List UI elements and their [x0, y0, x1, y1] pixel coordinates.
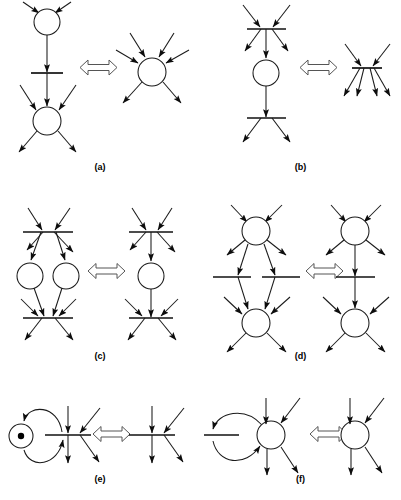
arc-out [326, 333, 345, 352]
place-node [34, 9, 60, 35]
arc-in [161, 299, 178, 316]
arc-in [21, 299, 38, 316]
place-node [138, 58, 166, 86]
panel-f-left-graph [204, 398, 300, 475]
arc-in [323, 297, 341, 314]
arc-in [158, 208, 172, 230]
arc-out [19, 131, 37, 152]
arc-in [365, 398, 384, 423]
arc-in [55, 2, 71, 13]
arc-out [326, 240, 344, 255]
arc-in [281, 398, 300, 423]
arc-out [267, 333, 286, 352]
arc-in [28, 208, 42, 230]
arc-out [164, 435, 183, 462]
panel-a-left-graph [19, 2, 76, 152]
token-dot [18, 433, 24, 439]
arc-in [23, 2, 39, 13]
arc-out [366, 333, 385, 352]
panel-b [243, 5, 390, 142]
panel-a [19, 2, 189, 152]
arc-out [245, 29, 261, 51]
arc-out [365, 447, 382, 473]
arc-out [25, 318, 42, 340]
panel-c-equiv-arrow [88, 264, 125, 279]
place-node [341, 217, 369, 245]
panel-f [204, 398, 384, 475]
panel-caption-a: (a) [0, 162, 200, 172]
panel-b-right-graph [344, 44, 390, 96]
panel-d-right-graph [323, 205, 389, 352]
arc-in [130, 33, 145, 57]
panel-caption-f: (f) [200, 474, 401, 484]
arc-out [267, 240, 286, 255]
panel-d [213, 205, 389, 352]
arc-in [364, 205, 381, 222]
panel-e-right-graph [129, 406, 184, 463]
double-headed-arrow-icon [300, 60, 337, 75]
panel-c [17, 208, 178, 340]
place-node [33, 107, 61, 135]
arc-in [231, 205, 247, 222]
arc-in [80, 408, 100, 433]
arc-out [272, 29, 288, 51]
arc-in [164, 408, 184, 433]
panel-e-left-graph [9, 406, 100, 463]
arc-out [281, 447, 298, 473]
double-headed-arrow-icon [88, 264, 125, 279]
panel-e [9, 406, 184, 463]
loop-arc-to-transition [213, 413, 262, 429]
arc-internal [53, 288, 62, 316]
arc-in [370, 297, 389, 314]
arc-internal [31, 232, 41, 260]
petri-net-equivalence-figure [0, 0, 401, 500]
panel-c-left-graph [17, 208, 79, 340]
place-node [138, 263, 164, 289]
arc-internal [238, 277, 248, 309]
arc-out [123, 82, 142, 103]
arc-out [243, 118, 261, 142]
place-node [242, 309, 270, 337]
arc-out [55, 318, 73, 340]
place-node [53, 263, 79, 289]
arc-in [271, 297, 290, 314]
arc-out [227, 333, 246, 352]
place-node [242, 217, 270, 245]
panel-b-equiv-arrow [300, 60, 337, 75]
arc-internal [264, 244, 275, 275]
arc-out [366, 240, 385, 255]
panel-caption-c: (c) [0, 351, 200, 361]
panel-e-equiv-arrow [93, 427, 130, 442]
arc-in [159, 33, 174, 57]
panel-a-equiv-arrow [80, 60, 117, 75]
panel-caption-d: (d) [200, 351, 401, 361]
arc-internal [238, 244, 248, 275]
arc-in [59, 299, 76, 316]
panel-caption-e: (e) [0, 474, 200, 484]
arc-out [227, 240, 245, 255]
arc-in [116, 50, 138, 63]
arc-internal [265, 277, 275, 309]
place-node [257, 421, 285, 449]
arc-in [166, 50, 189, 63]
arc-in [20, 85, 36, 110]
double-headed-arrow-icon [93, 427, 130, 442]
arc-in [345, 44, 361, 66]
panel-c-right-graph [125, 208, 178, 340]
arc-out [157, 232, 175, 252]
arc-out [80, 435, 99, 462]
place-node [341, 421, 369, 449]
loop-arc-to-place [213, 441, 260, 461]
arc-in [125, 299, 142, 316]
panel-d-left-graph [213, 205, 300, 352]
arc-in [331, 205, 346, 222]
panel-f-right-graph [341, 398, 384, 475]
panel-b-left-graph [243, 5, 290, 142]
arc-in [273, 5, 290, 27]
arc-in [265, 205, 282, 222]
place-node [17, 263, 43, 289]
arc-out [58, 131, 76, 152]
place-node [253, 60, 279, 86]
arc-in [373, 44, 390, 66]
panel-caption-b: (b) [200, 162, 401, 172]
